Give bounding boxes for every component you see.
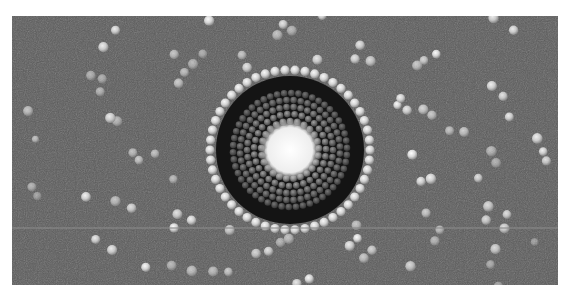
caption-text-cut-off	[220, 0, 280, 4]
document-page	[0, 0, 571, 298]
micrograph-figure	[12, 16, 558, 285]
micrograph-image	[12, 16, 558, 285]
scan-line-artifact	[12, 227, 558, 229]
bright-core	[258, 118, 322, 182]
caption-text-cut-off	[40, 0, 100, 4]
